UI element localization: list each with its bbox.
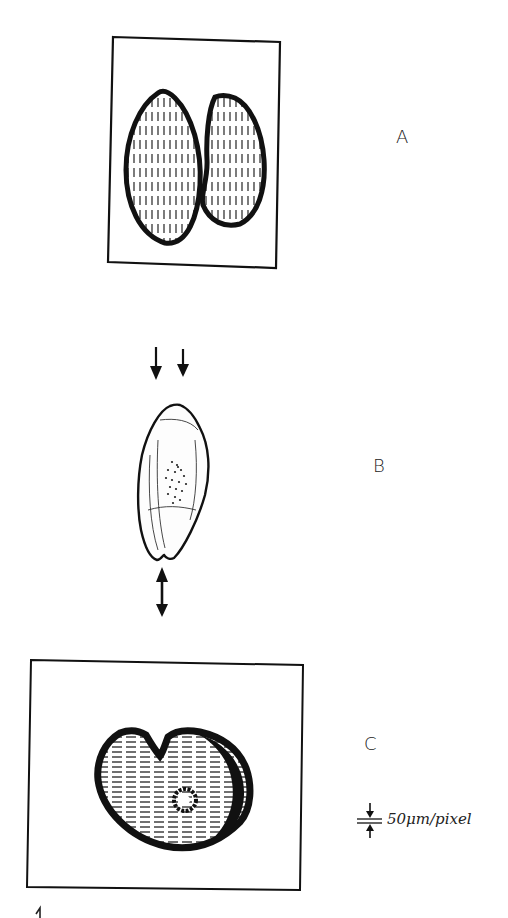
panel-label-b: B (373, 455, 385, 476)
compression-arrow-left-icon (150, 347, 162, 380)
footer-mark (36, 908, 40, 918)
panel-b (138, 347, 208, 617)
compression-arrow-right-icon (177, 349, 189, 377)
figure-canvas (0, 0, 508, 918)
grain-a-left (126, 91, 200, 243)
grain-a-right (202, 96, 264, 226)
scale-bar-icon (357, 803, 382, 838)
grain-b (138, 405, 208, 560)
tension-arrow-double-icon (156, 567, 168, 617)
scale-bar-label: 50μm/pixel (387, 810, 472, 828)
panel-label-a: A (396, 126, 408, 147)
panel-label-c: C (364, 733, 377, 754)
panel-c (27, 660, 303, 890)
panel-a (108, 37, 280, 268)
